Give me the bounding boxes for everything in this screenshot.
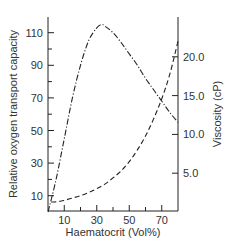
y2-tick-label: 15.0	[183, 90, 204, 102]
y-tick-label: 10	[31, 190, 43, 202]
x-tick-label: 30	[91, 214, 103, 226]
chart: 10305070901105.010.015.020.010305070 Hae…	[0, 0, 229, 242]
y-tick-label: 110	[25, 27, 43, 39]
axes	[48, 17, 178, 211]
x-tick-label: 50	[123, 214, 135, 226]
curves	[48, 24, 178, 212]
x-tick-label: 10	[58, 214, 70, 226]
y2-axis-label: Viscosity (cP)	[211, 81, 223, 147]
y-tick-label: 30	[31, 157, 43, 169]
oxygen-transport-curve	[48, 24, 178, 212]
x-axis-label: Haematocrit (Vol%)	[66, 226, 161, 238]
viscosity-curve	[51, 41, 178, 202]
y2-tick-label: 5.0	[183, 167, 198, 179]
y2-tick-label: 20.0	[183, 51, 204, 63]
y-axis-label: Relative oxygen transport capacity	[7, 29, 19, 198]
y-tick-label: 90	[31, 59, 43, 71]
x-tick-label: 70	[156, 214, 168, 226]
y-tick-label: 50	[31, 125, 43, 137]
y2-tick-label: 10.0	[183, 128, 204, 140]
y-tick-label: 70	[31, 92, 43, 104]
